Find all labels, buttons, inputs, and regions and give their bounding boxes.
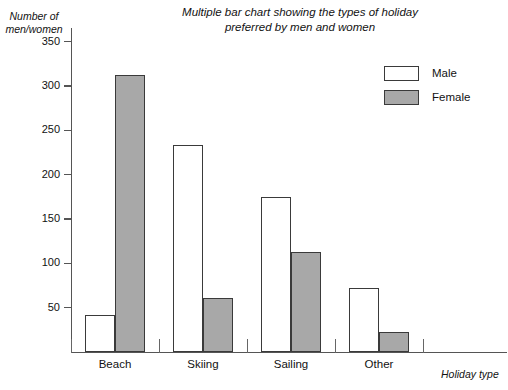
legend-label-male: Male bbox=[432, 67, 457, 79]
category-label-other: Other bbox=[334, 358, 424, 370]
bar-skiing-female bbox=[203, 298, 233, 352]
y-axis-label-line-2: men/women bbox=[5, 23, 62, 35]
legend-item-male: Male bbox=[384, 63, 470, 83]
y-axis-label: Number of men/women bbox=[2, 10, 66, 36]
y-axis-line bbox=[71, 28, 72, 353]
y-axis-tick-label: 50 bbox=[26, 301, 60, 313]
y-axis-tick bbox=[64, 130, 72, 131]
category-separator bbox=[423, 339, 424, 353]
chart-title-line-1: Multiple bar chart showing the types of … bbox=[182, 6, 418, 18]
category-label-skiing: Skiing bbox=[158, 358, 248, 370]
y-axis-tick-label: 250 bbox=[26, 123, 60, 135]
chart-legend: MaleFemale bbox=[384, 63, 470, 111]
bar-skiing-male bbox=[173, 145, 203, 352]
y-axis-label-line-1: Number of bbox=[9, 10, 58, 22]
category-separator bbox=[71, 339, 72, 353]
y-axis-tick-label: 200 bbox=[26, 168, 60, 180]
y-axis-tick-label: 300 bbox=[26, 79, 60, 91]
y-axis-tick-label: 150 bbox=[26, 212, 60, 224]
legend-label-female: Female bbox=[432, 91, 470, 103]
y-axis-tick bbox=[64, 174, 72, 175]
bar-sailing-male bbox=[261, 197, 291, 352]
x-axis-line bbox=[71, 352, 507, 353]
y-axis-tick bbox=[64, 85, 72, 86]
chart-title: Multiple bar chart showing the types of … bbox=[150, 5, 450, 35]
chart-title-line-2: preferred by men and women bbox=[225, 21, 375, 33]
y-axis-tick bbox=[64, 263, 72, 264]
legend-item-female: Female bbox=[384, 87, 470, 107]
category-separator bbox=[335, 339, 336, 353]
y-axis-tick bbox=[64, 41, 72, 42]
bar-sailing-female bbox=[291, 252, 321, 352]
category-separator bbox=[247, 339, 248, 353]
legend-swatch-female bbox=[384, 90, 419, 105]
bar-other-male bbox=[349, 288, 379, 352]
category-separator bbox=[159, 339, 160, 353]
bar-other-female bbox=[379, 332, 409, 352]
legend-swatch-male bbox=[384, 66, 419, 81]
y-axis-tick bbox=[64, 218, 72, 219]
category-label-beach: Beach bbox=[70, 358, 160, 370]
x-axis-label: Holiday type bbox=[441, 368, 499, 380]
y-axis-tick-label: 350 bbox=[26, 35, 60, 47]
y-axis-tick-label: 100 bbox=[26, 256, 60, 268]
category-label-sailing: Sailing bbox=[246, 358, 336, 370]
bar-beach-female bbox=[115, 75, 145, 352]
bar-chart: Multiple bar chart showing the types of … bbox=[0, 0, 508, 390]
bar-beach-male bbox=[85, 315, 115, 352]
y-axis-tick bbox=[64, 307, 72, 308]
